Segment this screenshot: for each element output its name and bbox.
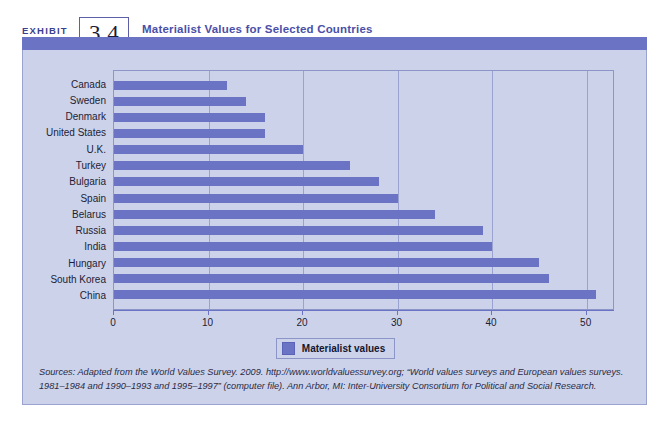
x-axis-tick-label: 0 (110, 317, 116, 328)
bars-group (114, 77, 613, 303)
y-axis-tick-label: Russia (23, 223, 111, 239)
x-axis: 01020304050 (113, 310, 614, 340)
legend-swatch-materialist-values (282, 342, 295, 355)
x-axis-tick-label: 10 (202, 317, 213, 328)
bar-row (114, 109, 613, 125)
y-axis-tick-label: China (23, 288, 111, 304)
exhibit-label: EXHIBIT (22, 25, 68, 36)
bar-row (114, 93, 613, 109)
bar (114, 129, 265, 138)
y-axis-tick-label: Hungary (23, 255, 111, 271)
bar-row (114, 206, 613, 222)
bar (114, 210, 435, 219)
x-axis-line (113, 310, 614, 311)
x-axis-tick (113, 310, 114, 315)
bar (114, 226, 483, 235)
x-axis-tick (208, 310, 209, 315)
y-axis-tick-label: United States (23, 125, 111, 141)
bar (114, 242, 492, 251)
header-accent-bar (22, 37, 647, 50)
bar (114, 161, 350, 170)
bar-row (114, 142, 613, 158)
bar-row (114, 190, 613, 206)
bar-row (114, 222, 613, 238)
figure-panel: CanadaSwedenDenmarkUnited StatesU.K.Turk… (22, 50, 647, 405)
bar-row (114, 174, 613, 190)
x-axis-tick-label: 40 (486, 317, 497, 328)
bar-row (114, 238, 613, 254)
y-axis-tick-label: U.K. (23, 141, 111, 157)
bar (114, 113, 265, 122)
bar-row (114, 77, 613, 93)
bar (114, 290, 596, 299)
x-axis-tick (586, 310, 587, 315)
y-axis-tick-label: Turkey (23, 157, 111, 173)
legend: Materialist values (23, 338, 648, 359)
bar (114, 274, 549, 283)
y-axis-labels: CanadaSwedenDenmarkUnited StatesU.K.Turk… (23, 76, 111, 304)
y-axis-tick-label: Sweden (23, 92, 111, 108)
x-axis-tick (491, 310, 492, 315)
legend-box: Materialist values (276, 338, 395, 359)
x-axis-tick-label: 50 (580, 317, 591, 328)
source-note: Sources: Adapted from the World Values S… (39, 365, 633, 394)
bar-row (114, 255, 613, 271)
bar (114, 258, 539, 267)
y-axis-tick-label: Denmark (23, 109, 111, 125)
bar (114, 177, 379, 186)
x-axis-tick (302, 310, 303, 315)
legend-label: Materialist values (302, 343, 385, 354)
y-axis-tick-label: Canada (23, 76, 111, 92)
y-axis-tick-label: South Korea (23, 271, 111, 287)
bar (114, 81, 227, 90)
chart-area: CanadaSwedenDenmarkUnited StatesU.K.Turk… (23, 50, 648, 322)
bar (114, 194, 398, 203)
y-axis-tick-label: Spain (23, 190, 111, 206)
bar (114, 145, 303, 154)
plot-region (113, 70, 614, 310)
source-note-text: Sources: Adapted from the World Values S… (39, 367, 623, 391)
y-axis-tick-label: India (23, 239, 111, 255)
y-axis-tick-label: Belarus (23, 206, 111, 222)
y-axis-tick-label: Bulgaria (23, 174, 111, 190)
bar (114, 97, 246, 106)
bar-row (114, 287, 613, 303)
bar-row (114, 158, 613, 174)
x-axis-tick (397, 310, 398, 315)
exhibit-title: Materialist Values for Selected Countrie… (142, 23, 373, 35)
x-axis-tick-label: 30 (391, 317, 402, 328)
x-axis-tick-label: 20 (296, 317, 307, 328)
bar-row (114, 125, 613, 141)
bar-row (114, 271, 613, 287)
